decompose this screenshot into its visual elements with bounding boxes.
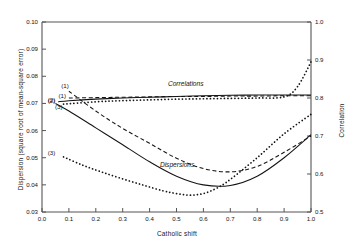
y-tick-label-right: 0.5	[315, 208, 345, 215]
y-tick-label-right: 0.9	[315, 56, 345, 63]
x-tick-label: 0.6	[188, 215, 218, 222]
x-tick-label: 0.3	[108, 215, 138, 222]
y-tick-label-left: 0.06	[0, 127, 38, 134]
plot-canvas	[0, 0, 357, 249]
y-tick-label-right: 0.7	[315, 132, 345, 139]
series-group-label: Correlations	[168, 80, 204, 87]
curve-index-label: (1)	[61, 82, 69, 89]
x-tick-label: 0.1	[54, 215, 84, 222]
y-axis-left-title: Dispersion (square root of mean-square e…	[17, 45, 24, 195]
y-tick-label-left: 0.09	[0, 45, 38, 52]
curve-index-label: (3)	[55, 103, 63, 110]
y-tick-label-right: 0.8	[315, 94, 345, 101]
axis-ticks	[42, 22, 311, 212]
y-tick-label-left: 0.04	[0, 181, 38, 188]
x-tick-label: 0.2	[81, 215, 111, 222]
y-tick-label-left: 0.03	[0, 208, 38, 215]
curve-index-label: (3)	[48, 149, 56, 156]
y-tick-label-left: 0.08	[0, 72, 38, 79]
y-axis-right-title: Correlation	[338, 56, 345, 186]
x-tick-label: 0.9	[269, 215, 299, 222]
x-axis-title: Catholic shift	[42, 230, 312, 237]
y-tick-label-right: 1.0	[315, 18, 345, 25]
y-tick-label-right: 0.6	[315, 170, 345, 177]
y-tick-label-left: 0.07	[0, 99, 38, 106]
x-tick-label: 0.8	[242, 215, 272, 222]
chart-figure: Dispersion (square root of mean-square e…	[0, 0, 357, 249]
x-tick-label: 1.0	[296, 215, 326, 222]
x-tick-label: 0.5	[162, 215, 192, 222]
series-group-label: Dispersions	[160, 161, 194, 168]
x-tick-label: 0.0	[27, 215, 57, 222]
x-tick-label: 0.4	[135, 215, 165, 222]
x-tick-label: 0.7	[215, 215, 245, 222]
plot-frame	[42, 22, 311, 212]
curve-index-label: (1)	[59, 92, 67, 99]
y-tick-label-left: 0.05	[0, 154, 38, 161]
y-tick-label-left: 0.10	[0, 18, 38, 25]
series-line	[64, 114, 311, 195]
